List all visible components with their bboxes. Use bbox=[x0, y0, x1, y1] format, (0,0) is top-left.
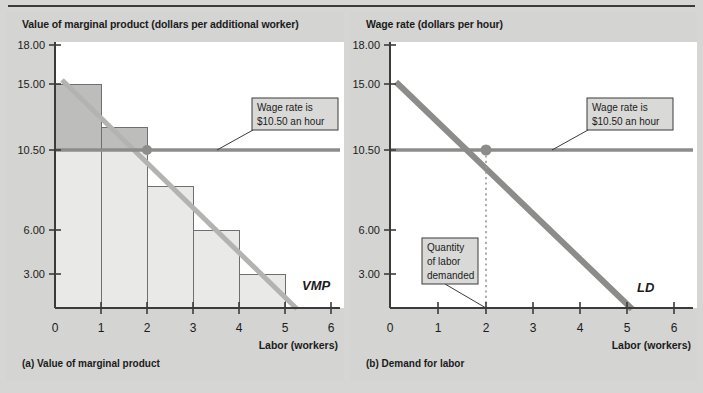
panel-value-of-marginal-product: Value of marginal product (dollars per a… bbox=[6, 12, 344, 381]
panel-b-ytick-4: 3.00 bbox=[359, 268, 380, 280]
panel-b-ytick-3: 6.00 bbox=[359, 224, 380, 236]
panel-a-callout-line1: Wage rate is bbox=[257, 102, 313, 113]
panel-a-xtick-5: 5 bbox=[282, 321, 289, 335]
panel-a-ytick-3: 6.00 bbox=[24, 224, 45, 236]
bar-base-2 bbox=[101, 150, 147, 308]
panel-a-ytick-0: 18.00 bbox=[17, 39, 45, 51]
panel-b-xtick-1: 1 bbox=[435, 321, 442, 335]
panel-a-ytick-2: 10.50 bbox=[17, 144, 45, 156]
panel-a-xtick-3: 3 bbox=[190, 321, 197, 335]
panel-b-caption: (b) Demand for labor bbox=[366, 358, 464, 369]
panel-b-xtick-6: 6 bbox=[671, 321, 678, 335]
panel-a-x-axis-name: Labor (workers) bbox=[259, 339, 338, 351]
panel-b-xtick-4: 4 bbox=[577, 321, 584, 335]
panel-a-xtick-2: 2 bbox=[144, 321, 151, 335]
panel-b-ytick-2: 10.50 bbox=[352, 144, 380, 156]
panel-a-ytick-1: 15.00 bbox=[17, 78, 45, 90]
vmp-curve-label: VMP bbox=[302, 278, 331, 293]
bar-base-1 bbox=[55, 150, 101, 308]
panel-a-xtick-0: 0 bbox=[52, 321, 59, 335]
panel-b-ytick-1: 15.00 bbox=[352, 78, 380, 90]
panel-a-caption: (a) Value of marginal product bbox=[22, 358, 160, 369]
panel-a-callout-line2: $10.50 an hour bbox=[257, 116, 325, 127]
panel-b-quantity-callout-line3: demanded bbox=[427, 270, 474, 281]
panel-b-xtick-5: 5 bbox=[624, 321, 631, 335]
ld-curve-label: LD bbox=[637, 280, 655, 295]
panel-b-quantity-callout-line2: of labor bbox=[427, 256, 461, 267]
panel-b-xtick-2: 2 bbox=[483, 321, 490, 335]
equilibrium-marker-b bbox=[481, 145, 492, 156]
panel-a-plot: 18.00 15.00 10.50 6.00 3.00 0 1 2 3 4 5 … bbox=[6, 12, 344, 352]
panel-a-xtick-6: 6 bbox=[328, 321, 335, 335]
panel-b-xtick-0: 0 bbox=[387, 321, 394, 335]
panel-b-wage-callout-line2: $10.50 an hour bbox=[592, 116, 660, 127]
panel-a-ytick-4: 3.00 bbox=[24, 268, 45, 280]
panel-b-plot: 18.00 15.00 10.50 6.00 3.00 0 1 2 3 4 5 … bbox=[350, 12, 697, 352]
panel-b-xtick-3: 3 bbox=[530, 321, 537, 335]
panel-b-x-axis-name: Labor (workers) bbox=[612, 339, 691, 351]
panel-b-ytick-0: 18.00 bbox=[352, 39, 380, 51]
top-divider-rule bbox=[8, 5, 695, 7]
panel-b-wage-callout-line1: Wage rate is bbox=[592, 102, 648, 113]
figure-container: Value of marginal product (dollars per a… bbox=[0, 0, 703, 393]
equilibrium-marker-a bbox=[142, 145, 152, 155]
panel-a-xtick-1: 1 bbox=[98, 321, 105, 335]
bar-base-4 bbox=[193, 230, 239, 308]
panel-demand-for-labor: Wage rate (dollars per hour) bbox=[350, 12, 697, 381]
panel-b-quantity-callout-line1: Quantity bbox=[427, 242, 464, 253]
panel-a-xtick-4: 4 bbox=[236, 321, 243, 335]
